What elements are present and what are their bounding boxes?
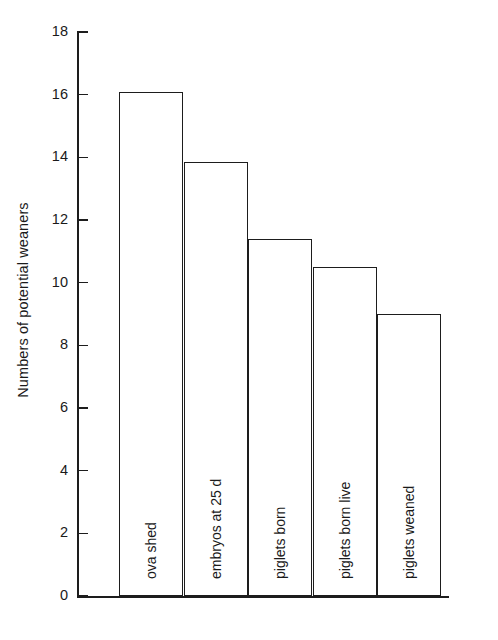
y-tick-8: 8 xyxy=(77,345,88,347)
y-tick-label: 0 xyxy=(60,588,68,603)
y-tick-label: 18 xyxy=(52,24,68,39)
y-tick-label: 10 xyxy=(52,275,68,290)
y-tick-0: 0 xyxy=(77,595,88,597)
bar-category-label: embryos at 25 d xyxy=(208,479,224,579)
bar-chart-figure: Numbers of potential weaners 02468101214… xyxy=(0,0,498,640)
bar-category-label: piglets born live xyxy=(337,482,353,579)
bar-category-label: piglets weaned xyxy=(401,486,417,579)
y-tick-label: 14 xyxy=(52,150,68,165)
y-tick-4: 4 xyxy=(77,470,88,472)
y-tick-mark xyxy=(77,533,88,535)
bar-2: piglets born xyxy=(248,239,312,596)
y-tick-mark xyxy=(77,94,88,96)
y-tick-label: 16 xyxy=(52,87,68,102)
y-tick-mark xyxy=(77,219,88,221)
y-tick-16: 16 xyxy=(77,94,88,96)
y-tick-12: 12 xyxy=(77,219,88,221)
plot-area: 024681012141618 ova shedembryos at 25 dp… xyxy=(77,32,449,596)
y-tick-label: 4 xyxy=(60,463,68,478)
y-tick-label: 12 xyxy=(52,212,68,227)
bar-4: piglets weaned xyxy=(377,314,441,596)
y-tick-mark xyxy=(77,470,88,472)
bar-3: piglets born live xyxy=(313,267,377,596)
y-tick-14: 14 xyxy=(77,157,88,159)
y-tick-mark xyxy=(77,595,88,597)
y-tick-18: 18 xyxy=(77,31,88,33)
y-tick-label: 8 xyxy=(60,338,68,353)
y-tick-mark xyxy=(77,407,88,409)
y-tick-2: 2 xyxy=(77,533,88,535)
y-axis-title: Numbers of potential weaners xyxy=(15,202,31,397)
y-tick-10: 10 xyxy=(77,282,88,284)
bar-category-label: piglets born xyxy=(272,507,288,579)
y-tick-label: 6 xyxy=(60,400,68,415)
y-axis-spine xyxy=(77,32,79,596)
y-tick-mark xyxy=(77,345,88,347)
y-tick-label: 2 xyxy=(60,526,68,541)
y-axis-title-container: Numbers of potential weaners xyxy=(0,0,46,600)
x-axis-spine xyxy=(77,596,449,598)
y-tick-mark xyxy=(77,31,88,33)
y-tick-mark xyxy=(77,282,88,284)
bar-1: embryos at 25 d xyxy=(184,162,248,596)
bar-0: ova shed xyxy=(119,92,183,596)
bar-category-label: ova shed xyxy=(143,522,159,579)
y-tick-mark xyxy=(77,157,88,159)
y-tick-6: 6 xyxy=(77,407,88,409)
